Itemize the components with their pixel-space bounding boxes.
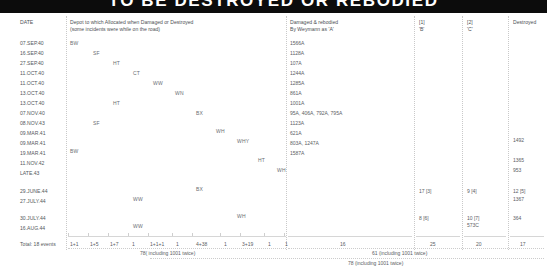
depot-total: 1+7 [110,241,118,248]
table-row-date: 16.SEP.40 [20,50,44,57]
axis-tick [240,233,241,236]
destroyed-value: 1367 [513,196,524,203]
destroyed-total: 17 [520,241,526,248]
depot-total: 1 [224,241,227,248]
column-c-value: 573C [467,222,479,229]
destroyed-value: 1492 [513,137,524,144]
destroyed-value: 12 [5] [513,188,526,195]
header-c-label: 'C' [467,26,473,33]
table-row-date: 11.OCT.40 [20,80,44,87]
depot-total: 1 [285,241,288,248]
rebodied-value: 1285A [290,80,304,87]
header-destroyed: Destroyed [513,19,536,26]
title-banner: TO BE DESTROYED OR REBODIED [0,0,547,13]
depot-total: 1 [132,241,135,248]
depot-totals-rule [68,236,286,237]
depot-code: HT [113,60,120,67]
depot-code: BW [70,40,78,47]
table-row-date: 13.OCT.40 [20,90,44,97]
depot-code: HT [258,157,265,164]
depot-total: 3+19 [242,241,253,248]
depot-code: WH [277,167,286,174]
table-row-date: 11.OCT.40 [20,70,44,77]
rebodied-totals-rule [288,236,412,237]
subtotal-rule [288,248,544,249]
depot-sum-rule [68,248,286,249]
table-row-date: 11.NOV.42 [20,160,44,167]
rebodied-value: 1123A [290,120,304,127]
column-divider-b [414,16,415,250]
table-row-date: 08.NOV.43 [20,120,45,127]
subtotal-note: 61 (including 1001 twice) [372,250,427,257]
header-date: DATE [20,19,33,26]
depot-code: WW [133,196,143,203]
table-row-date: 29.JUNE.44 [20,188,47,195]
destroyed-value: 364 [513,215,521,222]
depot-total: 1+1 [70,241,78,248]
axis-tick [68,233,69,236]
depot-total: 1 [176,241,179,248]
rebodied-value: 803A, 1247A [290,140,319,147]
table-row-date: 30.JULY.44 [20,215,46,222]
column-c-value: 10 [7] [467,215,480,222]
header-depot-line2: (some incidents were while on the road) [70,26,160,33]
axis-tick [220,233,221,236]
table-row-date: 27.JULY.44 [20,198,46,205]
depot-code: WH [216,128,225,135]
grand-total-rule [150,258,544,259]
column-divider-depot [66,16,67,250]
table-row-date: 09.MAR.41 [20,130,45,137]
column-c-totals-rule [464,236,506,237]
grand-total-note: 78 (including 1001 twice) [348,260,403,267]
depot-total: 1+1+1 [150,241,164,248]
table-row-date: 07.SEP.40 [20,40,44,47]
depot-sum-note: 78( including 1001 twice) [140,250,195,257]
rebodied-value: 95A, 406A, 792A, 795A [290,110,342,117]
depot-code: WN [175,90,184,97]
destroyed-value: 953 [513,167,521,174]
column-c-value: 9 [4] [467,188,477,195]
depot-total: 1+5 [90,241,98,248]
depot-code: CT [133,70,140,77]
depot-code: SF [93,120,100,127]
total-date-label: Total: 18 events [20,241,56,248]
depot-code: WHY [237,138,249,145]
rebodied-value: 621A [290,130,302,137]
depot-total: 1 [268,241,271,248]
column-c-total: 20 [476,241,482,248]
rebodied-value: 1566A [290,40,304,47]
table-row-date: 07.NOV.40 [20,110,45,117]
column-divider-rebodied [286,16,287,250]
axis-tick [128,233,129,236]
axis-tick [192,233,193,236]
rebodied-value: 1244A [290,70,304,77]
table-row-date: LATE.43 [20,170,39,177]
axis-tick [172,233,173,236]
table-row-date: 19.MAR.41 [20,150,45,157]
destroyed-totals-rule [510,236,544,237]
rebodied-value: 107A [290,60,302,67]
column-divider-c [462,16,463,250]
table-row-date: 09.MAR.41 [20,140,45,147]
depot-total: 4+38 [196,241,207,248]
column-b-total: 25 [430,241,436,248]
axis-tick [108,233,109,236]
depot-code: HT [113,100,120,107]
rebodied-total: 16 [340,241,346,248]
depot-code: WW [133,223,143,230]
axis-tick [264,233,265,236]
column-divider-destroyed [508,16,509,250]
depot-code: BW [70,148,78,155]
rebodied-value: 861A [290,90,302,97]
axis-tick [148,233,149,236]
destroyed-value: 1365 [513,157,524,164]
rebodied-value: 1587A [290,150,304,157]
damage-record-page: TO BE DESTROYED OR REBODIED DATE Depot t… [0,0,547,269]
header-rebodied-line2: By Weymann as 'A' [290,26,334,33]
depot-code: WH [237,213,246,220]
table-row-date: 13.OCT.40 [20,100,44,107]
banner-title: TO BE DESTROYED OR REBODIED [0,0,547,11]
rebodied-value: 1001A [290,100,304,107]
table-row-date: 27.SEP.40 [20,60,44,67]
column-b-value: 8 [6] [419,215,429,222]
